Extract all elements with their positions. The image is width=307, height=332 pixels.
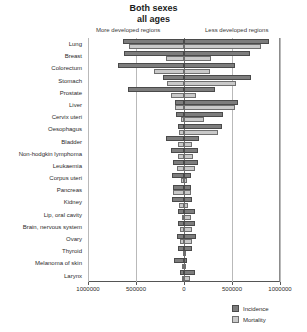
bar-rows: LungBreastColorectumStomachProstateLiver… bbox=[0, 38, 307, 282]
bar-mortality-less-developed bbox=[184, 44, 261, 49]
bar-mortality-more-developed bbox=[154, 69, 184, 74]
bar-incidence-less-developed bbox=[184, 197, 192, 202]
chart-row: Lip, oral cavity bbox=[0, 209, 307, 221]
bar-group bbox=[0, 160, 307, 172]
bar-mortality-less-developed bbox=[184, 56, 211, 61]
x-axis: 100000050000005000001000000 bbox=[0, 282, 307, 292]
bar-incidence-less-developed bbox=[184, 173, 191, 178]
bar-group bbox=[0, 87, 307, 99]
bar-mortality-less-developed bbox=[184, 190, 191, 195]
bar-mortality-less-developed bbox=[184, 178, 187, 183]
bar-mortality-more-developed bbox=[171, 93, 184, 98]
bar-incidence-more-developed bbox=[124, 51, 184, 56]
bar-incidence-more-developed bbox=[177, 234, 184, 239]
bar-mortality-more-developed bbox=[175, 105, 184, 110]
bar-mortality-less-developed bbox=[184, 166, 195, 171]
bar-incidence-more-developed bbox=[128, 87, 184, 92]
legend-item-incidence: Incidence bbox=[232, 303, 269, 314]
bar-mortality-less-developed bbox=[184, 154, 193, 159]
bar-mortality-more-developed bbox=[166, 56, 184, 61]
legend-item-mortality: Mortality bbox=[232, 314, 269, 325]
bar-mortality-less-developed bbox=[184, 215, 191, 220]
legend-label-incidence: Incidence bbox=[243, 306, 269, 312]
bar-mortality-less-developed bbox=[184, 203, 188, 208]
bar-mortality-less-developed bbox=[184, 142, 192, 147]
chart-row: Thyroid bbox=[0, 245, 307, 257]
bar-incidence-more-developed bbox=[163, 75, 184, 80]
chart-row: Leukaemia bbox=[0, 160, 307, 172]
bar-mortality-less-developed bbox=[184, 264, 186, 269]
bar-incidence-more-developed bbox=[172, 173, 184, 178]
bar-incidence-less-developed bbox=[184, 75, 251, 80]
chart-row: Cervix uteri bbox=[0, 111, 307, 123]
bar-incidence-more-developed bbox=[174, 258, 184, 263]
x-axis-tick bbox=[280, 282, 281, 285]
bar-incidence-less-developed bbox=[184, 100, 238, 105]
legend-label-mortality: Mortality bbox=[243, 317, 266, 323]
x-axis-tick bbox=[232, 282, 233, 285]
bar-incidence-more-developed bbox=[173, 185, 184, 190]
chart-legend: Incidence Mortality bbox=[232, 303, 269, 325]
cancer-burden-pyramid-chart: Both sexes all ages More developed regio… bbox=[0, 0, 307, 332]
bar-incidence-more-developed bbox=[123, 39, 184, 44]
bar-group bbox=[0, 123, 307, 135]
bar-mortality-less-developed bbox=[184, 251, 186, 256]
more-developed-regions-label: More developed regions bbox=[96, 27, 160, 33]
bar-group bbox=[0, 99, 307, 111]
bar-incidence-less-developed bbox=[184, 87, 215, 92]
x-axis-tick bbox=[136, 282, 137, 285]
bar-mortality-more-developed bbox=[167, 81, 184, 86]
x-axis-tick-label: 1000000 bbox=[76, 286, 99, 292]
bar-mortality-less-developed bbox=[184, 105, 235, 110]
bar-group bbox=[0, 233, 307, 245]
bar-mortality-less-developed bbox=[184, 227, 192, 232]
bar-incidence-less-developed bbox=[184, 112, 223, 117]
x-axis-tick-label: 500000 bbox=[222, 286, 242, 292]
chart-row: Larynx bbox=[0, 270, 307, 282]
bar-group bbox=[0, 184, 307, 196]
bar-incidence-less-developed bbox=[184, 234, 196, 239]
incidence-swatch bbox=[232, 305, 239, 312]
bar-group bbox=[0, 75, 307, 87]
chart-row: Lung bbox=[0, 38, 307, 50]
chart-row: Pancreas bbox=[0, 184, 307, 196]
bar-group bbox=[0, 196, 307, 208]
x-axis-tick-label: 1000000 bbox=[268, 286, 291, 292]
chart-row: Stomach bbox=[0, 75, 307, 87]
bar-incidence-more-developed bbox=[118, 63, 184, 68]
chart-row: Breast bbox=[0, 50, 307, 62]
x-axis-tick bbox=[88, 282, 89, 285]
bar-group bbox=[0, 136, 307, 148]
bar-group bbox=[0, 270, 307, 282]
chart-row: Bladder bbox=[0, 136, 307, 148]
bar-incidence-less-developed bbox=[184, 258, 187, 263]
bar-incidence-more-developed bbox=[171, 148, 184, 153]
bar-group bbox=[0, 148, 307, 160]
chart-row: Ovary bbox=[0, 233, 307, 245]
bar-mortality-more-developed bbox=[129, 44, 184, 49]
chart-row: Colorectum bbox=[0, 62, 307, 74]
chart-subtitle: all ages bbox=[0, 14, 307, 25]
bar-incidence-more-developed bbox=[175, 100, 184, 105]
bar-group bbox=[0, 38, 307, 50]
bar-incidence-less-developed bbox=[184, 124, 222, 129]
less-developed-regions-label: Less developed regions bbox=[205, 27, 268, 33]
bar-mortality-less-developed bbox=[184, 117, 204, 122]
bar-mortality-less-developed bbox=[184, 69, 210, 74]
bar-incidence-less-developed bbox=[184, 160, 198, 165]
chart-row: Prostate bbox=[0, 87, 307, 99]
bar-mortality-less-developed bbox=[184, 239, 192, 244]
bar-incidence-less-developed bbox=[184, 63, 235, 68]
bar-incidence-less-developed bbox=[184, 136, 199, 141]
chart-row: Brain, nervous system bbox=[0, 221, 307, 233]
bar-group bbox=[0, 50, 307, 62]
bar-incidence-less-developed bbox=[184, 221, 195, 226]
bar-group bbox=[0, 245, 307, 257]
chart-row: Liver bbox=[0, 99, 307, 111]
bar-group bbox=[0, 62, 307, 74]
bar-mortality-more-developed bbox=[177, 166, 184, 171]
bar-group bbox=[0, 209, 307, 221]
x-axis-tick-label: 500000 bbox=[126, 286, 146, 292]
x-axis-tick bbox=[184, 282, 185, 285]
chart-title: Both sexes all ages bbox=[0, 3, 307, 25]
